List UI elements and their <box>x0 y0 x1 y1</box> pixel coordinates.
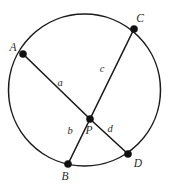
vertex-dot-d <box>124 150 131 157</box>
vertex-dot-a <box>19 50 26 57</box>
point-label-c: C <box>136 12 144 24</box>
vertex-dot-c <box>130 25 137 32</box>
point-label-b: B <box>61 170 68 182</box>
circle-outline <box>9 14 161 166</box>
vertex-dot-p <box>86 115 93 122</box>
chord-segment-c <box>90 29 134 119</box>
segment-label-b: b <box>67 125 72 136</box>
vertex-dot-b <box>64 160 71 167</box>
segment-label-a: a <box>57 77 62 88</box>
point-label-d: D <box>133 157 143 169</box>
segment-label-c: c <box>100 63 105 74</box>
circle-chords-figure: A C P B D a b c d <box>0 0 172 185</box>
point-label-p: P <box>84 124 92 136</box>
point-label-a: A <box>8 41 17 53</box>
segment-label-d: d <box>107 123 113 134</box>
geometry-diagram: A C P B D a b c d <box>0 0 172 185</box>
